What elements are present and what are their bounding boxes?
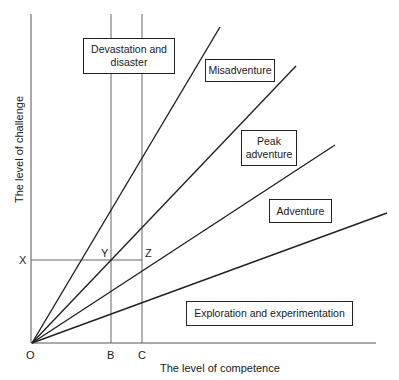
y-point-label: Y [101, 248, 108, 259]
region-devastation-and-disaster: Devastation and disaster [83, 38, 175, 74]
region-label: Adventure [277, 205, 325, 218]
z-point-label: Z [145, 248, 152, 259]
region-label: Exploration and experimentation [194, 307, 345, 320]
boundary-line-1 [32, 27, 220, 343]
region-label: adventure [246, 148, 293, 161]
region-peak-adventure: Peak adventure [241, 130, 297, 166]
region-label: Misadventure [208, 64, 271, 77]
x-axis-label: The level of competence [160, 363, 280, 374]
y-axis-label: The level of challenge [13, 96, 25, 203]
region-adventure: Adventure [269, 199, 332, 223]
region-label: Devastation and [91, 43, 167, 56]
b-marker-label: B [107, 350, 114, 361]
region-misadventure: Misadventure [205, 59, 275, 82]
region-label: Peak [257, 135, 281, 148]
x-marker-label: X [19, 255, 26, 266]
region-label: disaster [111, 56, 148, 69]
region-exploration-and-experimentation: Exploration and experimentation [186, 301, 353, 326]
origin-label: O [26, 350, 35, 361]
c-marker-label: C [138, 350, 146, 361]
